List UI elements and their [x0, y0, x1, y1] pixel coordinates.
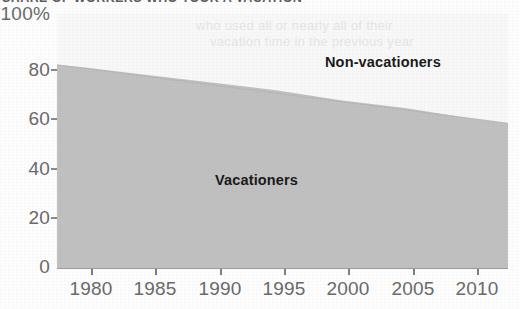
series-label-non-vacationers: Non-vacationers — [325, 54, 441, 70]
x-axis-label-2005: 2005 — [391, 278, 434, 300]
x-axis-label-1985: 1985 — [133, 278, 176, 300]
chart-figure: SHARE OF WORKERS WHO TOOK A VACATION who… — [0, 0, 520, 309]
x-axis-label-1995: 1995 — [262, 278, 305, 300]
x-axis-line — [57, 268, 508, 269]
area-chart-svg — [57, 14, 508, 268]
x-axis-tick-2005 — [413, 269, 415, 275]
x-axis-label-1980: 1980 — [69, 278, 112, 300]
x-axis-tick-2000 — [348, 269, 350, 275]
series-label-vacationers: Vacationers — [215, 172, 298, 188]
x-axis-tick-1990 — [220, 269, 222, 275]
x-axis-tick-1985 — [155, 269, 157, 275]
x-axis-label-2000: 2000 — [326, 278, 369, 300]
x-axis-label-2010: 2010 — [455, 278, 498, 300]
plot-area — [57, 14, 508, 268]
x-axis-tick-1995 — [284, 269, 286, 275]
x-axis-tick-1980 — [91, 269, 93, 275]
chart-title: SHARE OF WORKERS WHO TOOK A VACATION — [2, 0, 518, 5]
x-axis-label-1990: 1990 — [198, 278, 241, 300]
x-axis-tick-2010 — [477, 269, 479, 275]
